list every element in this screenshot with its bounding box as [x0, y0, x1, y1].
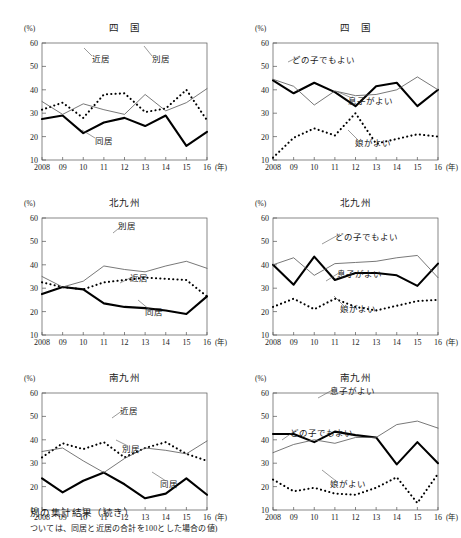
x-tick-label: 2008	[34, 163, 50, 172]
y-tick-label: 60	[30, 39, 38, 48]
x-tick-label: 15	[182, 163, 190, 172]
x-tick-label: 2008	[34, 338, 50, 347]
series-annotation-近居: 近居	[92, 54, 110, 64]
unit-label: (%)	[255, 24, 267, 33]
series-annotation-近居: 近居	[120, 406, 138, 416]
series-annotation-別居: 別居	[118, 221, 136, 231]
y-tick-label: 60	[261, 39, 269, 48]
x-tick-label: 13	[141, 338, 149, 347]
series-annotation-娘がよい: 娘がよい	[355, 138, 391, 148]
y-tick-label: 60	[30, 389, 38, 398]
x-tick-label: 16	[434, 338, 442, 347]
y-tick-label: 60	[261, 389, 269, 398]
x-tick-label: 14	[393, 338, 401, 347]
x-tick-label: 12	[352, 338, 360, 347]
x-tick-label: 09	[290, 338, 298, 347]
chart-panel-kitakyushu-left: (%)北九州60504030201020080910111213141516(年…	[24, 197, 227, 347]
series-annotation-息子がよい: 息子がよい	[330, 386, 375, 396]
x-tick-label: 14	[162, 338, 170, 347]
x-axis-suffix: (年)	[215, 162, 227, 172]
x-tick-label: 11	[331, 163, 339, 172]
y-tick-label: 50	[30, 62, 38, 71]
x-tick-label: 10	[310, 163, 318, 172]
y-tick-label: 50	[261, 412, 269, 421]
plot-frame	[273, 393, 438, 510]
x-tick-label: 11	[331, 338, 339, 347]
caption-line-2: ついては、同居と近居の合計を100とした場合の値)	[30, 522, 450, 533]
x-tick-label: 12	[121, 163, 129, 172]
x-tick-label: 09	[59, 163, 67, 172]
y-tick-label: 20	[30, 133, 38, 142]
x-tick-label: 15	[182, 338, 190, 347]
series-annotation-どの子でもよい: どの子でもよい	[335, 232, 398, 242]
series-annotation-息子がよい: 息子がよい	[348, 96, 393, 106]
plot-frame	[42, 218, 207, 335]
x-tick-label: 13	[372, 163, 380, 172]
unit-label: (%)	[24, 374, 36, 383]
unit-label: (%)	[255, 374, 267, 383]
chart-panel-shikoku-left: (%)四 国60504030201020080910111213141516(年…	[24, 23, 227, 172]
series-annotation-同居: 同居	[160, 479, 178, 489]
series-annotation-娘がよい: 娘がよい	[340, 304, 376, 314]
y-tick-label: 20	[30, 483, 38, 492]
x-tick-label: 15	[413, 163, 421, 172]
y-tick-label: 20	[30, 308, 38, 317]
unit-label: (%)	[255, 199, 267, 208]
chart-title-minamikyushu-left: 南九州	[109, 372, 141, 383]
series-annotation-別居: 別居	[122, 444, 140, 454]
y-tick-label: 40	[261, 436, 269, 445]
plot-frame	[42, 43, 207, 160]
chart-title-kitakyushu-left: 北九州	[109, 197, 141, 208]
x-tick-label: 16	[203, 163, 211, 172]
y-tick-label: 20	[261, 133, 269, 142]
x-tick-label: 12	[352, 163, 360, 172]
unit-label: (%)	[24, 199, 36, 208]
y-tick-label: 20	[261, 308, 269, 317]
y-tick-label: 40	[30, 261, 38, 270]
y-tick-label: 30	[30, 284, 38, 293]
x-axis-suffix: (年)	[215, 337, 227, 347]
y-tick-label: 40	[30, 86, 38, 95]
y-tick-label: 50	[30, 412, 38, 421]
y-tick-label: 60	[261, 214, 269, 223]
series-annotation-別居: 別居	[152, 54, 170, 64]
x-tick-label: 16	[203, 338, 211, 347]
x-tick-label: 09	[290, 163, 298, 172]
chart-title-shikoku-right: 四 国	[340, 23, 372, 33]
x-tick-label: 2008	[265, 163, 281, 172]
y-tick-label: 30	[261, 109, 269, 118]
x-tick-label: 15	[413, 338, 421, 347]
series-annotation-近居: 近居	[130, 273, 148, 283]
charts-canvas: (%)四 国60504030201020080910111213141516(年…	[0, 0, 461, 538]
y-tick-label: 50	[261, 62, 269, 71]
series-annotation-息子がよい: 息子がよい	[337, 269, 382, 279]
y-tick-label: 40	[261, 86, 269, 95]
y-tick-label: 30	[261, 284, 269, 293]
x-tick-label: 13	[372, 338, 380, 347]
x-tick-label: 11	[100, 163, 108, 172]
y-tick-label: 50	[30, 237, 38, 246]
chart-title-minamikyushu-right: 南九州	[340, 372, 372, 383]
unit-label: (%)	[24, 24, 36, 33]
x-tick-label: 11	[100, 338, 108, 347]
y-tick-label: 20	[261, 483, 269, 492]
series-annotation-どの子でもよい: どの子でもよい	[290, 428, 353, 438]
figure-caption: 別の集計結果（続き） ついては、同居と近居の合計を100とした場合の値)	[30, 505, 450, 533]
x-tick-label: 14	[162, 163, 170, 172]
y-tick-label: 40	[30, 436, 38, 445]
series-annotation-同居: 同居	[145, 307, 163, 317]
x-tick-label: 16	[434, 163, 442, 172]
x-tick-label: 10	[79, 338, 87, 347]
chart-title-shikoku-left: 四 国	[109, 23, 141, 33]
y-tick-label: 40	[261, 261, 269, 270]
x-tick-label: 2008	[265, 338, 281, 347]
x-tick-label: 13	[141, 163, 149, 172]
y-tick-label: 60	[30, 214, 38, 223]
series-annotation-どの子でもよい: どの子でもよい	[292, 55, 355, 65]
x-tick-label: 10	[79, 163, 87, 172]
x-tick-label: 10	[310, 338, 318, 347]
figure-sheet: (%)四 国60504030201020080910111213141516(年…	[0, 0, 461, 538]
y-tick-label: 50	[261, 237, 269, 246]
x-axis-suffix: (年)	[446, 162, 458, 172]
chart-title-kitakyushu-right: 北九州	[340, 197, 372, 208]
